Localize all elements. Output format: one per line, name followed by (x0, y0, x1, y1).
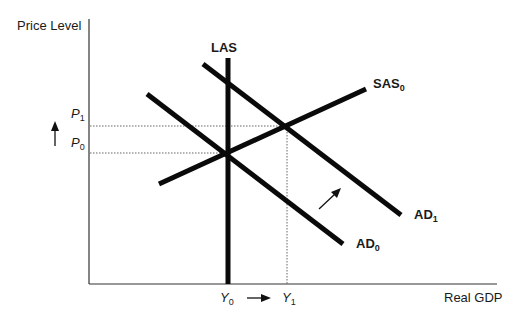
y0-label-text: Y (220, 290, 229, 305)
p0-label-text: P (71, 135, 80, 150)
ad0-label-sub: 0 (375, 243, 380, 253)
las-label: LAS (211, 40, 237, 55)
ad-as-diagram (0, 0, 518, 317)
x-axis-label: Real GDP (444, 290, 503, 305)
ad1-curve (203, 64, 401, 215)
ad1-label-text: AD (414, 207, 433, 222)
y0-label-sub: 0 (229, 297, 234, 307)
p0-label-sub: 0 (80, 142, 85, 152)
output-increase-arrow-icon (247, 294, 271, 302)
ad0-curve (147, 94, 343, 244)
sas0-curve (159, 89, 366, 184)
x-axis-label-text: Real GDP (444, 290, 503, 305)
y-axis-label: Price Level (17, 18, 81, 33)
ad1-label: AD1 (414, 207, 438, 224)
ad1-label-sub: 1 (433, 214, 438, 224)
p1-label-text: P (71, 106, 80, 121)
y-axis-label-text: Price Level (17, 18, 81, 33)
price-increase-arrow-icon (51, 121, 59, 146)
p1-label: P1 (71, 106, 85, 123)
las-label-text: LAS (211, 40, 237, 55)
y1-label: Y1 (282, 290, 296, 307)
sas0-label-sub: 0 (400, 83, 405, 93)
p1-label-sub: 1 (80, 113, 85, 123)
ad0-label: AD0 (356, 236, 380, 253)
ad0-label-text: AD (356, 236, 375, 251)
y0-label: Y0 (220, 290, 234, 307)
y1-label-text: Y (282, 290, 291, 305)
demand-shift-arrow-icon (319, 188, 341, 209)
p0-label: P0 (71, 135, 85, 152)
y1-label-sub: 1 (291, 297, 296, 307)
sas0-label-text: SAS (373, 76, 400, 91)
sas0-label: SAS0 (373, 76, 405, 93)
